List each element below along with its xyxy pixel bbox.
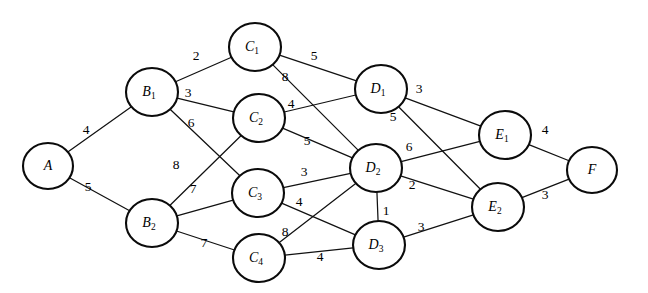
graph-edge [279, 183, 356, 242]
graph-node-a: A [23, 143, 73, 189]
graph-edge [177, 98, 234, 112]
graph-edge [283, 173, 350, 187]
graph-edge [279, 55, 356, 81]
graph-edge [177, 200, 233, 216]
edge-weight-label: 5 [311, 48, 318, 63]
edge-weight-label: 8 [282, 224, 289, 239]
graph-node-c3: C3 [232, 169, 284, 217]
node-label-subscript: 2 [151, 222, 156, 232]
edge-weight-label: 7 [190, 181, 197, 196]
edge-weight-label: 3 [416, 81, 423, 96]
node-label-subscript: 2 [258, 117, 263, 127]
edge-weight-label: 3 [301, 164, 308, 179]
graph-node-d3: D3 [353, 221, 405, 269]
graph-edge [377, 192, 378, 221]
edge-weight-label: 4 [83, 122, 90, 137]
graph-node-f: F [567, 147, 617, 193]
node-label: F [587, 162, 597, 177]
edge-weight-label: 8 [173, 157, 180, 172]
graph-edge [170, 109, 240, 176]
node-label-subscript: 3 [379, 244, 384, 254]
edge-weight-label: 2 [193, 48, 200, 63]
graph-node-c1: C1 [229, 23, 281, 71]
graph-edge [176, 57, 232, 81]
edge-weight-label: 6 [406, 139, 413, 154]
graph-node-d1: D1 [355, 65, 407, 113]
node-label-subscript: 1 [504, 134, 509, 144]
graph-edge [284, 95, 356, 112]
graph-node-e2: E2 [472, 183, 524, 231]
graph-node-b2: B2 [126, 199, 178, 247]
node-label: A [43, 158, 53, 173]
edge-weight-label: 7 [201, 235, 208, 250]
node-label-subscript: 2 [376, 167, 381, 177]
edge-weight-label: 1 [383, 203, 390, 218]
graph-edge [405, 98, 481, 126]
edge-weight-label: 5 [85, 179, 92, 194]
graph-edge [170, 135, 241, 205]
edge-weight-label: 4 [317, 249, 324, 264]
graph-edge [69, 178, 129, 211]
graph-node-c2: C2 [233, 94, 285, 142]
edge-weight-label: 2 [409, 177, 416, 192]
node-label-subscript: 3 [257, 192, 262, 202]
edge-weight-label: 3 [185, 85, 192, 100]
node-label-subscript: 1 [381, 88, 386, 98]
node-label-subscript: 1 [254, 46, 259, 56]
graph-node-b1: B1 [126, 68, 178, 116]
graph-node-e1: E1 [479, 111, 531, 159]
node-label-subscript: 4 [258, 257, 263, 267]
nodes-layer: AB1B2C1C2C3C4D1D2D3E1E2F [23, 23, 617, 282]
edge-weight-label: 6 [188, 115, 195, 130]
edge-weight-label: 3 [418, 219, 425, 234]
edge-weight-label: 8 [282, 69, 289, 84]
edge-weight-label: 4 [296, 194, 303, 209]
edge-weight-label: 5 [304, 133, 311, 148]
edge-weight-label: 4 [288, 96, 295, 111]
graph-edge [68, 107, 132, 152]
graph-edge [283, 128, 353, 158]
edge-weight-label: 4 [542, 122, 549, 137]
edge-weight-label: 3 [542, 187, 549, 202]
node-label-subscript: 1 [151, 91, 156, 101]
graph-edge [401, 141, 480, 161]
graph-edge [529, 145, 569, 161]
graph-edge [404, 215, 474, 237]
graph-node-d2: D2 [350, 144, 402, 192]
graph-node-c4: C4 [233, 234, 285, 282]
node-label-subscript: 2 [497, 206, 502, 216]
network-graph-canvas: 452368775845348435621343 AB1B2C1C2C3C4D1… [0, 0, 648, 293]
graph-edge [282, 203, 356, 235]
graph-figure: 452368775845348435621343 AB1B2C1C2C3C4D1… [0, 0, 648, 293]
